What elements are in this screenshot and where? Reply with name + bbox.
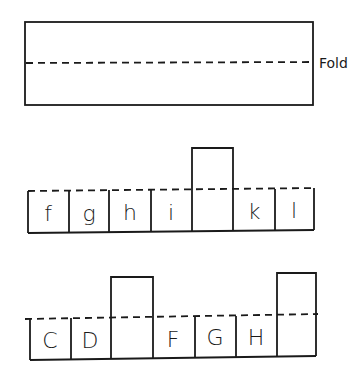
uppercase-row-base bbox=[30, 356, 316, 360]
cell-letter: k bbox=[248, 199, 261, 224]
fold-line bbox=[26, 62, 312, 63]
raised-cell bbox=[111, 277, 153, 359]
fold-strip: Fold bbox=[25, 22, 348, 105]
lowercase-row: f g h i k l bbox=[28, 148, 314, 233]
cell-letter: g bbox=[82, 201, 95, 226]
fold-label: Fold bbox=[319, 55, 348, 71]
lowercase-row-base bbox=[28, 230, 314, 233]
cell-letter: F bbox=[167, 327, 180, 352]
cell-letter: H bbox=[248, 325, 265, 350]
cell-letter: h bbox=[123, 200, 137, 225]
cell-letter: D bbox=[82, 328, 99, 353]
cell-letter: C bbox=[42, 328, 57, 353]
uppercase-row: C D F G H bbox=[25, 273, 318, 360]
cell-letter: l bbox=[291, 198, 297, 223]
cell-letter: f bbox=[44, 201, 52, 226]
lowercase-row-fold-line bbox=[28, 188, 314, 191]
uppercase-row-fold-line bbox=[25, 314, 318, 319]
folding-diagram: Fold f g h i k l bbox=[0, 0, 364, 374]
cell-letter: G bbox=[206, 325, 223, 350]
cell-letter: i bbox=[168, 200, 174, 225]
